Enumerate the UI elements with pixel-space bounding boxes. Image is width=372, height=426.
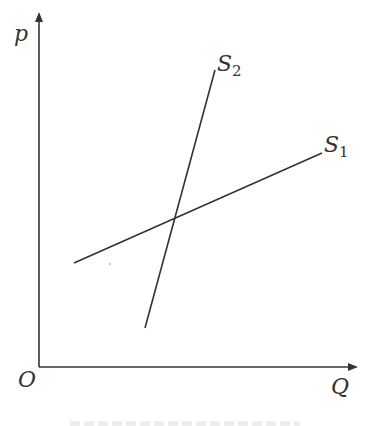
- supply-curve-s1: [74, 153, 322, 263]
- supply-curve-s2: [145, 70, 215, 328]
- y-axis-label: p: [14, 21, 28, 46]
- figure-caption-cropped: [70, 421, 300, 426]
- s2-label: S2: [217, 51, 242, 80]
- x-axis-label: Q: [331, 374, 349, 399]
- origin-label: O: [18, 367, 36, 392]
- s1-label: S1: [324, 132, 349, 161]
- scan-artifact-dot: [109, 263, 111, 265]
- supply-curves-diagram: p Q O S1 S2: [0, 0, 372, 426]
